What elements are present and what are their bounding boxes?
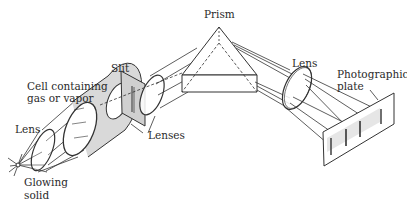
label-prism: Prism: [204, 8, 235, 20]
photographic-plate: [323, 93, 394, 166]
label-glowing-line2: solid: [24, 189, 49, 201]
label-cell-line2: gas or vapor: [27, 92, 94, 104]
label-lens-left: Lens: [15, 123, 40, 135]
label-plate-line1: Photographic: [337, 68, 407, 80]
glowing-solid-icon: [16, 163, 20, 167]
label-lens-right: Lens: [292, 57, 317, 69]
prism: [182, 27, 257, 92]
spectrograph-diagram: Prism Slit Cell containing gas or vapor …: [0, 0, 407, 211]
label-lenses: Lenses: [148, 129, 185, 141]
label-cell-line1: Cell containing: [27, 80, 108, 92]
label-glowing-line1: Glowing: [24, 176, 68, 188]
label-slit: Slit: [111, 62, 129, 74]
label-plate-line2: plate: [337, 80, 364, 92]
